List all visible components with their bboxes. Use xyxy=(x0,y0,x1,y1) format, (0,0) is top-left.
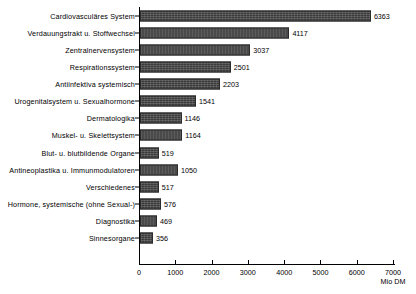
x-axis-tick-label: 0 xyxy=(137,268,141,277)
x-axis-unit-label: Mio DM xyxy=(381,277,406,286)
bar-chart: Cardiovasculäres System6363Verdauungstra… xyxy=(0,0,416,294)
x-axis-tick-label: 5000 xyxy=(312,268,328,277)
x-axis-tick xyxy=(139,260,140,265)
x-axis-tick xyxy=(175,260,176,265)
x-axis-tick-label: 6000 xyxy=(349,268,365,277)
x-axis-tick xyxy=(357,260,358,265)
x-axis-tick-label: 7000 xyxy=(385,268,401,277)
x-axis-tick xyxy=(393,260,394,265)
x-axis-tick xyxy=(284,260,285,265)
x-axis-tick-label: 3000 xyxy=(240,268,256,277)
x-axis-tick-label: 4000 xyxy=(276,268,292,277)
x-axis-ticks: 01000200030004000500060007000 xyxy=(0,0,416,294)
x-axis-tick-label: 1000 xyxy=(167,268,183,277)
x-axis-tick xyxy=(212,260,213,265)
x-axis-tick xyxy=(248,260,249,265)
x-axis-tick-label: 2000 xyxy=(204,268,220,277)
x-axis-tick xyxy=(320,260,321,265)
